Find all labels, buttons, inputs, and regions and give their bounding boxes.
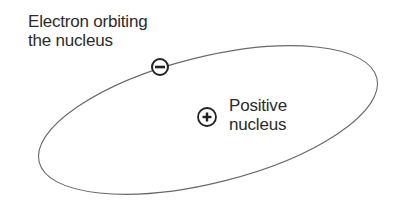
nucleus-label-line1: Positive: [229, 96, 287, 115]
electron-label-line1: Electron orbiting: [28, 12, 147, 31]
electron-icon: [152, 59, 168, 75]
nucleus-label-line2: nucleus: [229, 115, 286, 134]
electron-label-line2: the nucleus: [28, 31, 113, 50]
nucleus-icon: [198, 108, 216, 126]
